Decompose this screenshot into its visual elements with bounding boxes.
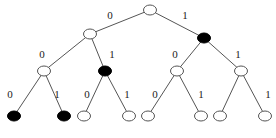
empty-node-n101 [195,111,208,121]
edge-label: 1 [198,88,204,100]
edge-label: 1 [235,48,241,60]
filled-node-n01 [99,66,112,76]
tree-edge-n11-n111 [241,71,265,116]
empty-node-n10 [171,66,184,76]
tree-edge-n0-n01 [90,34,105,71]
edge-label: 1 [109,48,115,60]
empty-node-n010 [78,111,91,121]
edge-label: 1 [54,88,60,100]
empty-node-n111 [259,111,272,121]
tree-edge-n0-n00 [44,34,90,71]
tree-edge-root-n0 [90,10,150,34]
tree-edge-n00-n000 [14,71,44,116]
edge-label: 0 [172,48,178,60]
filled-node-n001 [58,111,71,121]
tree-edges [14,10,265,116]
tree-edge-n1-n10 [177,38,204,71]
edge-label: 0 [39,48,45,60]
filled-node-n000 [8,111,21,121]
edge-label: 0 [7,88,13,100]
empty-node-n00 [38,66,51,76]
empty-node-n100 [142,111,155,121]
edge-labels: 0101010101011 [7,9,271,100]
edge-label: 0 [107,9,113,21]
filled-node-n1 [198,33,211,43]
empty-node-n110 [214,111,227,121]
empty-node-n011 [123,111,136,121]
empty-node-root [144,5,157,15]
edge-label: 1 [265,88,271,100]
edge-label: 1 [182,9,188,21]
edge-label: 1 [124,88,130,100]
tree-edge-root-n1 [150,10,204,38]
edge-label: 0 [152,88,158,100]
empty-node-n0 [84,29,97,39]
binary-tree-diagram: 0101010101011 [0,0,276,138]
tree-edge-n11-n110 [220,71,241,116]
empty-node-n11 [235,66,248,76]
edge-label: 0 [84,88,90,100]
